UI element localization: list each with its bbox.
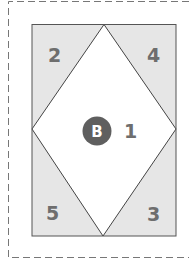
label-piece-1: 1 [124, 120, 137, 142]
quilt-diagram: 2 4 5 3 B 1 [0, 0, 189, 264]
badge-label: B [91, 123, 102, 141]
label-piece-4: 4 [147, 44, 160, 66]
label-piece-5: 5 [46, 202, 59, 224]
label-piece-2: 2 [48, 44, 61, 66]
label-piece-3: 3 [147, 203, 160, 225]
